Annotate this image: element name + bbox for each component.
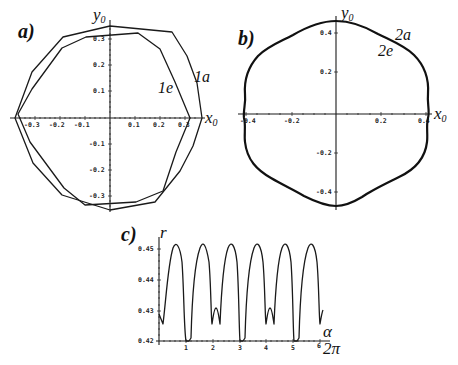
panel-a-xtick-label: 0.2 — [153, 121, 165, 129]
panel-c-ytick-label: 0.42 — [138, 337, 154, 345]
panel-c-xtick-label: 2 — [211, 344, 215, 352]
series-label-1a: 1a — [194, 68, 210, 85]
panel-b-ytick-label: 0.2 — [320, 68, 332, 76]
series-label-2e: 2e — [378, 42, 393, 59]
panel-a-xtick-label: -0.3 — [24, 121, 40, 129]
panel-b-x-label: x0 — [433, 104, 447, 124]
panel-b: b) -0.4 -0.2 0.2 0.4 0.4 0.2 -0.2 -0.4 x… — [238, 3, 447, 210]
panel-a-ytick-label: 0.2 — [93, 61, 105, 69]
panel-c-ytick-label: 0.44 — [138, 276, 154, 284]
series-label-2a: 2a — [395, 26, 411, 43]
panel-b-xtick-label: -0.2 — [284, 117, 300, 125]
panel-a-ytick-label: -0.3 — [89, 192, 105, 200]
panel-a-ytick-label: -0.1 — [89, 140, 105, 148]
panel-c-label: c) — [121, 223, 137, 246]
panel-b-xtick-label: 0.2 — [375, 117, 387, 125]
panel-a-y-label: y0 — [91, 5, 106, 25]
panel-a: a) - — [10, 5, 218, 212]
panel-c-xtick-label: 1 — [184, 344, 188, 352]
curve-r-alpha — [159, 244, 323, 341]
panel-b-ytick-label: 0.4 — [320, 29, 332, 37]
panel-b-ytick-label: -0.2 — [316, 149, 332, 157]
panel-b-ytick-label: -0.4 — [316, 188, 332, 196]
panel-c-xtick-label: 3 — [238, 344, 242, 352]
panel-c-x-unit: 2π — [323, 339, 341, 358]
panel-a-label: a) — [18, 20, 35, 43]
panel-a-x-label: x0 — [204, 108, 218, 128]
panel-c-xtick-label: 4 — [264, 344, 268, 352]
series-label-1e: 1e — [158, 79, 173, 96]
panel-b-y-label: y0 — [339, 3, 354, 23]
panel-a-ytick-label: 0.1 — [93, 87, 105, 95]
panel-c-ytick-label: 0.45 — [138, 245, 154, 253]
panel-c-xtick-label: 6 — [317, 342, 321, 350]
figure: a) - — [0, 0, 458, 365]
panel-b-label: b) — [238, 27, 255, 50]
panel-c-xtick-label: 5 — [291, 344, 295, 352]
panel-a-xtick-label: -0.1 — [74, 121, 90, 129]
panel-c: c) 1 2 3 4 5 6 0.45 0.44 0.43 0.42 r α — [121, 223, 341, 358]
panel-a-xtick-label: 0.1 — [128, 121, 140, 129]
panel-c-y-label: r — [160, 223, 167, 242]
panel-b-xtick-label: -0.4 — [240, 117, 256, 125]
panel-a-ytick-label: -0.2 — [89, 166, 105, 174]
panel-c-ytick-label: 0.43 — [138, 307, 154, 315]
panel-a-xtick-label: -0.2 — [49, 121, 65, 129]
